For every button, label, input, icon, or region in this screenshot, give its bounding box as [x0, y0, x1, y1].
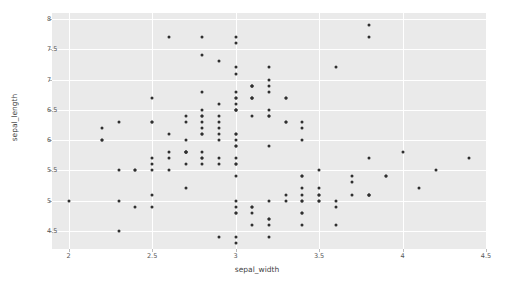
y-tick-label: 6.5: [47, 106, 57, 114]
data-point: [251, 96, 254, 99]
data-point: [318, 169, 321, 172]
data-point: [401, 151, 404, 154]
data-point: [151, 163, 154, 166]
data-point: [201, 114, 204, 117]
data-point: [151, 169, 154, 172]
data-point: [234, 108, 237, 111]
data-point: [234, 157, 237, 160]
data-point: [301, 193, 304, 196]
data-point: [268, 114, 271, 117]
data-point: [284, 199, 287, 202]
data-point: [368, 24, 371, 27]
y-tick-label: 8: [47, 15, 51, 23]
data-point: [201, 126, 204, 129]
data-point: [268, 108, 271, 111]
data-point: [201, 133, 204, 136]
data-point: [201, 163, 204, 166]
data-point: [201, 108, 204, 111]
data-point: [217, 139, 220, 142]
data-point: [301, 187, 304, 190]
data-point: [167, 169, 170, 172]
data-point: [251, 114, 254, 117]
data-point: [234, 66, 237, 69]
gridline-horizontal: [52, 140, 486, 141]
data-point: [234, 102, 237, 105]
data-point: [217, 235, 220, 238]
y-axis-label: sepal_length: [10, 78, 19, 158]
data-point: [234, 175, 237, 178]
data-point: [268, 78, 271, 81]
data-point: [151, 157, 154, 160]
data-point: [301, 199, 304, 202]
data-point: [234, 163, 237, 166]
x-tick-label: 4: [400, 252, 404, 260]
data-point: [268, 199, 271, 202]
data-point: [234, 235, 237, 238]
data-point: [234, 205, 237, 208]
y-tick-label: 4.5: [47, 227, 57, 235]
data-point: [167, 151, 170, 154]
data-point: [268, 217, 271, 220]
data-point: [268, 223, 271, 226]
data-point: [151, 205, 154, 208]
data-point: [217, 126, 220, 129]
data-point: [134, 205, 137, 208]
data-point: [334, 223, 337, 226]
data-point: [234, 42, 237, 45]
y-tick-label: 7: [47, 76, 51, 84]
data-point: [251, 223, 254, 226]
data-point: [234, 96, 237, 99]
data-point: [67, 199, 70, 202]
data-point: [351, 181, 354, 184]
data-point: [217, 157, 220, 160]
data-point: [217, 102, 220, 105]
data-point: [117, 199, 120, 202]
data-point: [301, 126, 304, 129]
data-point: [301, 211, 304, 214]
data-point: [384, 175, 387, 178]
x-tick-label: 3.5: [314, 252, 324, 260]
data-point: [167, 157, 170, 160]
data-point: [184, 114, 187, 117]
data-point: [151, 96, 154, 99]
data-point: [117, 229, 120, 232]
data-point: [268, 66, 271, 69]
data-point: [134, 169, 137, 172]
x-axis-label: sepal_width: [0, 265, 514, 274]
data-point: [234, 145, 237, 148]
data-point: [251, 84, 254, 87]
data-point: [234, 72, 237, 75]
data-point: [234, 36, 237, 39]
data-point: [234, 133, 237, 136]
data-point: [201, 120, 204, 123]
data-point: [184, 187, 187, 190]
data-point: [234, 211, 237, 214]
y-tick-label: 5.5: [47, 166, 57, 174]
data-point: [351, 175, 354, 178]
data-point: [251, 205, 254, 208]
data-point: [201, 54, 204, 57]
data-point: [201, 90, 204, 93]
data-point: [217, 60, 220, 63]
data-point: [318, 193, 321, 196]
x-tick-label: 2.5: [147, 252, 157, 260]
data-point: [217, 120, 220, 123]
data-point: [234, 241, 237, 244]
gridline-horizontal: [52, 49, 486, 50]
data-point: [318, 199, 321, 202]
data-point: [301, 120, 304, 123]
x-tick-label: 3: [234, 252, 238, 260]
data-point: [167, 133, 170, 136]
data-point: [268, 84, 271, 87]
data-point: [101, 126, 104, 129]
data-point: [234, 199, 237, 202]
data-point: [234, 139, 237, 142]
data-point: [201, 157, 204, 160]
x-tick-label: 4.5: [481, 252, 491, 260]
data-point: [268, 235, 271, 238]
data-point: [184, 151, 187, 154]
data-point: [217, 163, 220, 166]
data-point: [334, 205, 337, 208]
data-point: [301, 223, 304, 226]
data-point: [284, 120, 287, 123]
